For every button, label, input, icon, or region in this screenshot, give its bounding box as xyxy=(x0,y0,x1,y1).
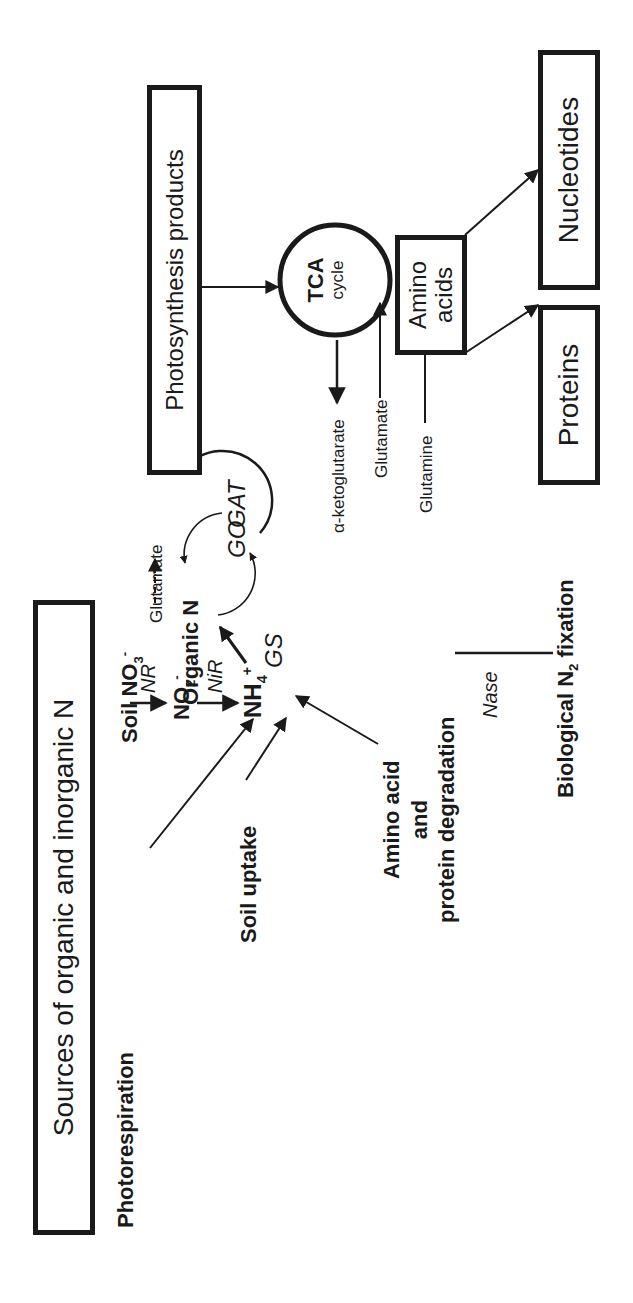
nitrogen-assimilation-diagram: Sources of organic and inorganic N Photo… xyxy=(0,0,633,1303)
n2-to-nh4-arrow xyxy=(0,0,633,1303)
